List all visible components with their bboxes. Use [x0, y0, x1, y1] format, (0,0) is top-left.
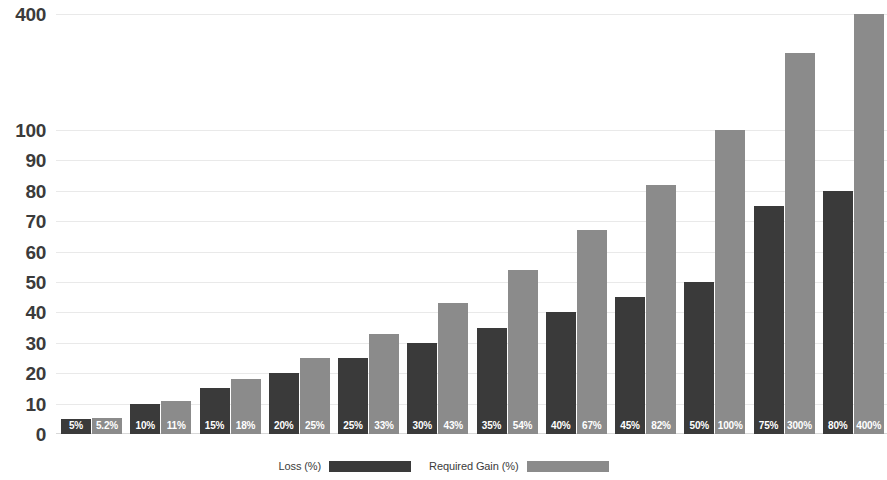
- bar-loss[interactable]: 30%: [407, 343, 437, 434]
- bar-loss[interactable]: 25%: [338, 358, 368, 434]
- bar-group: 40%67%: [546, 0, 607, 434]
- bar-loss[interactable]: 80%: [823, 191, 853, 434]
- y-axis-tick-label: 400: [0, 5, 46, 24]
- y-axis: 0102030405060708090100400: [0, 0, 46, 440]
- y-axis-tick-label: 10: [0, 394, 46, 413]
- bar-value-label: 25%: [300, 421, 330, 431]
- bar-loss[interactable]: 75%: [754, 206, 784, 434]
- bar-groups: 5%5.2%10%11%15%18%20%25%25%33%30%43%35%5…: [56, 0, 887, 434]
- legend-label: Loss (%): [278, 460, 321, 472]
- bar-value-label: 35%: [477, 421, 507, 431]
- bar-loss[interactable]: 45%: [615, 297, 645, 434]
- y-axis-tick-label: 80: [0, 181, 46, 200]
- y-axis-tick-label: 60: [0, 242, 46, 261]
- bar-value-label: 20%: [269, 421, 299, 431]
- bar-loss[interactable]: 5%: [61, 419, 91, 434]
- bar-value-label: 40%: [546, 421, 576, 431]
- bar-loss[interactable]: 10%: [130, 404, 160, 434]
- y-axis-tick-label: 0: [0, 425, 46, 444]
- bar-group: 25%33%: [338, 0, 399, 434]
- bar-group: 30%43%: [407, 0, 468, 434]
- y-axis-tick-label: 40: [0, 303, 46, 322]
- bar-gain[interactable]: 400%: [854, 14, 884, 434]
- bar-gain[interactable]: 5.2%: [92, 418, 122, 434]
- bar-value-label: 45%: [615, 421, 645, 431]
- bar-gain[interactable]: 43%: [438, 303, 468, 434]
- bar-gain[interactable]: 25%: [300, 358, 330, 434]
- bar-gain[interactable]: 82%: [646, 185, 676, 434]
- legend-label: Required Gain (%): [429, 460, 518, 472]
- bar-group: 10%11%: [130, 0, 191, 434]
- bar-value-label: 43%: [438, 421, 468, 431]
- bar-loss[interactable]: 50%: [684, 282, 714, 434]
- bar-value-label: 11%: [161, 421, 191, 431]
- bar-gain[interactable]: 11%: [161, 401, 191, 434]
- bar-gain[interactable]: 67%: [577, 230, 607, 434]
- bar-value-label: 100%: [715, 421, 745, 431]
- bar-loss[interactable]: 20%: [269, 373, 299, 434]
- bar-value-label: 33%: [369, 421, 399, 431]
- bar-value-label: 30%: [407, 421, 437, 431]
- legend-entry[interactable]: Loss (%): [278, 460, 411, 472]
- bar-gain[interactable]: 54%: [508, 270, 538, 434]
- bar-chart: 0102030405060708090100400 5%5.2%10%11%15…: [0, 0, 887, 480]
- bar-gain[interactable]: 18%: [231, 379, 261, 434]
- bar-value-label: 18%: [231, 421, 261, 431]
- bar-group: 80%400%: [823, 0, 884, 434]
- bar-value-label: 15%: [200, 421, 230, 431]
- bar-group: 35%54%: [477, 0, 538, 434]
- y-axis-tick-label: 20: [0, 364, 46, 383]
- bar-group: 75%300%: [754, 0, 815, 434]
- bar-loss[interactable]: 35%: [477, 328, 507, 434]
- bar-value-label: 300%: [785, 421, 815, 431]
- bar-value-label: 5%: [61, 421, 91, 431]
- bar-value-label: 82%: [646, 421, 676, 431]
- bar-loss[interactable]: 15%: [200, 388, 230, 434]
- bar-group: 20%25%: [269, 0, 330, 434]
- bar-gain[interactable]: 100%: [715, 130, 745, 434]
- bar-value-label: 67%: [577, 421, 607, 431]
- bar-group: 15%18%: [200, 0, 261, 434]
- bar-group: 50%100%: [684, 0, 745, 434]
- y-axis-tick-label: 100: [0, 121, 46, 140]
- bar-group: 45%82%: [615, 0, 676, 434]
- bar-value-label: 75%: [754, 421, 784, 431]
- bar-value-label: 25%: [338, 421, 368, 431]
- y-axis-tick-label: 30: [0, 333, 46, 352]
- bar-value-label: 50%: [684, 421, 714, 431]
- bar-value-label: 10%: [130, 421, 160, 431]
- legend-swatch: [329, 461, 411, 472]
- bar-value-label: 400%: [854, 421, 884, 431]
- bar-loss[interactable]: 40%: [546, 312, 576, 434]
- bar-group: 5%5.2%: [61, 0, 122, 434]
- legend-swatch: [527, 461, 609, 472]
- chart-legend: Loss (%)Required Gain (%): [0, 456, 887, 476]
- bar-value-label: 80%: [823, 421, 853, 431]
- bar-value-label: 5.2%: [92, 421, 122, 431]
- y-axis-tick-label: 50: [0, 273, 46, 292]
- legend-entry[interactable]: Required Gain (%): [429, 460, 608, 472]
- bar-gain[interactable]: 300%: [785, 53, 815, 434]
- bar-gain[interactable]: 33%: [369, 334, 399, 434]
- bar-value-label: 54%: [508, 421, 538, 431]
- y-axis-tick-label: 70: [0, 212, 46, 231]
- y-axis-tick-label: 90: [0, 151, 46, 170]
